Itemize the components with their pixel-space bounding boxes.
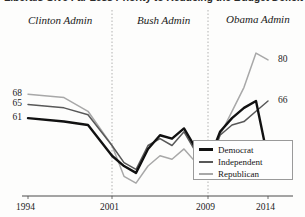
end-value-label-independent: 66 [278,95,288,105]
x-tick-label-1994: 1994 [16,202,35,212]
end-value-label-republican: 80 [278,54,288,64]
x-tick-label-2001: 2001 [100,202,119,212]
legend-label-independent: Independent [218,157,262,167]
plot-area [0,0,305,217]
chart-legend: Democrat Independent Republican [193,140,293,180]
legend-swatch-independent [199,161,213,163]
legend-item-republican: Republican [199,168,292,179]
start-value-label-independent: 65 [4,98,22,108]
start-value-label-republican: 68 [4,88,22,98]
legend-item-independent: Independent [199,156,292,167]
start-value-label-democrat: 61 [4,112,22,122]
x-tick-label-2009: 2009 [196,202,215,212]
chart-figure: Liberals Give Far Less Priority to Reduc… [0,0,305,217]
legend-swatch-republican [199,173,213,175]
legend-item-democrat: Democrat [199,144,292,155]
legend-label-democrat: Democrat [218,145,253,155]
legend-swatch-democrat [199,148,213,151]
legend-label-republican: Republican [218,169,259,179]
x-tick-label-2014: 2014 [256,202,275,212]
